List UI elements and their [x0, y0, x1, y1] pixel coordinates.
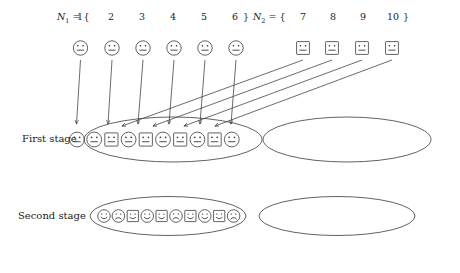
token-outline-circle [190, 132, 205, 147]
arrow-7-to-slot3 [122, 60, 303, 126]
first-stage-token-5 [139, 133, 152, 146]
token-mouth-smile [101, 217, 107, 219]
token-eye [194, 136, 196, 138]
token-eye [148, 136, 150, 138]
second-stage-token-8 [199, 210, 212, 223]
n2-element-7: 7 [296, 12, 310, 22]
arrow-3-to-slot4 [138, 60, 143, 124]
token-eye [231, 213, 232, 214]
set-n2-label: N2 = { [253, 12, 286, 24]
second-stage-token-7 [185, 210, 196, 221]
token-outline-circle [198, 41, 212, 55]
second-stage-token-10 [227, 210, 240, 223]
arrow-6-to-slot10 [231, 60, 236, 124]
token-outline-circle [229, 41, 243, 55]
token-outline-circle [121, 132, 136, 147]
token-eye [228, 136, 230, 138]
token-eye [238, 45, 240, 47]
token-eye [106, 213, 107, 214]
second-stage-token-5 [156, 210, 167, 221]
token-eye [115, 213, 116, 214]
second-stage-right-ellipse [259, 197, 415, 236]
token-eye [108, 136, 110, 138]
top-token-10 [386, 42, 399, 55]
n1-element-6: 6 [228, 12, 242, 22]
token-outline-circle [156, 132, 171, 147]
n2-element-9: 9 [356, 12, 370, 22]
top-token-8 [326, 42, 339, 55]
token-eye [145, 45, 147, 47]
token-outline-circle [170, 210, 183, 223]
token-eye [130, 213, 131, 214]
token-eye [202, 213, 203, 214]
token-outline-square [174, 133, 187, 146]
first-stage-token-8 [190, 132, 205, 147]
token-eye [159, 136, 161, 138]
token-outline-square [326, 42, 339, 55]
token-eye [149, 213, 150, 214]
token-eye [120, 213, 121, 214]
token-eye [144, 213, 145, 214]
token-eye [173, 213, 174, 214]
arrow-layer [77, 60, 393, 126]
arrow-9-to-slot7 [184, 60, 362, 126]
second-stage-token-9 [214, 210, 225, 221]
token-outline-square [208, 133, 221, 146]
token-eye [207, 45, 209, 47]
token-eye [389, 45, 391, 47]
token-outline-circle [199, 210, 212, 223]
token-eye [233, 45, 235, 47]
token-eye [101, 213, 102, 214]
first-stage-token-4 [121, 132, 136, 147]
second-stage-token-6 [170, 210, 183, 223]
set-n2-subscript: 2 [261, 17, 265, 25]
token-outline-circle [87, 132, 102, 147]
token-outline-square [156, 210, 167, 221]
first-stage-token-2 [87, 132, 102, 147]
top-token-3 [136, 41, 150, 55]
top-token-6 [229, 41, 243, 55]
token-layer [70, 41, 399, 223]
n2-element-10: 10 [384, 12, 402, 22]
n1-element-3: 3 [135, 12, 149, 22]
token-eye [176, 45, 178, 47]
token-eye [142, 136, 144, 138]
token-eye [359, 45, 361, 47]
token-outline-square [185, 210, 196, 221]
token-eye [329, 45, 331, 47]
token-eye [211, 136, 213, 138]
top-token-4 [167, 41, 181, 55]
n1-element-1: 1 [73, 12, 87, 22]
token-eye [79, 136, 81, 138]
second-stage-token-3 [127, 210, 138, 221]
token-eye [177, 136, 179, 138]
arrow-4-to-slot6 [169, 60, 174, 124]
top-token-7 [297, 42, 310, 55]
n1-element-4: 4 [166, 12, 180, 22]
set-n1-close-brace: } [243, 12, 249, 22]
token-mouth-smile [130, 217, 136, 219]
second-stage-left-ellipse [90, 197, 246, 236]
token-eye [91, 136, 93, 138]
token-outline-circle [98, 210, 111, 223]
top-token-5 [198, 41, 212, 55]
token-mouth-smile [158, 217, 164, 219]
ellipse-layer [84, 117, 431, 236]
token-mouth-smile [144, 217, 150, 219]
token-eye [182, 136, 184, 138]
token-outline-circle [105, 41, 119, 55]
top-token-1 [73, 41, 87, 55]
token-outline-square [386, 42, 399, 55]
token-eye [202, 45, 204, 47]
token-mouth-frown [173, 218, 179, 220]
first-stage-label: First stage [22, 134, 77, 144]
token-mouth-frown [115, 218, 121, 220]
n1-element-5: 5 [197, 12, 211, 22]
first-stage-token-3 [105, 133, 118, 146]
token-eye [140, 45, 142, 47]
top-token-2 [105, 41, 119, 55]
token-outline-square [105, 133, 118, 146]
first-stage-token-9 [208, 133, 221, 146]
token-eye [82, 45, 84, 47]
token-eye [199, 136, 201, 138]
